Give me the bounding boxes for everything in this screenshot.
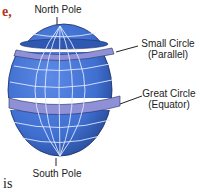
small-circle-leader	[116, 46, 138, 52]
small-circle-label-line1: Small Circle	[136, 38, 200, 49]
small-circle-label: Small Circle (Parallel)	[136, 38, 200, 60]
north-pole-label: North Pole	[30, 4, 86, 15]
small-circle-label-line2: (Parallel)	[136, 49, 200, 60]
great-circle-label-line2: (Equator)	[138, 99, 200, 110]
south-pole-label: South Pole	[28, 168, 86, 179]
great-circle-label-line1: Great Circle	[138, 88, 200, 99]
great-circle-label: Great Circle (Equator)	[138, 88, 200, 110]
